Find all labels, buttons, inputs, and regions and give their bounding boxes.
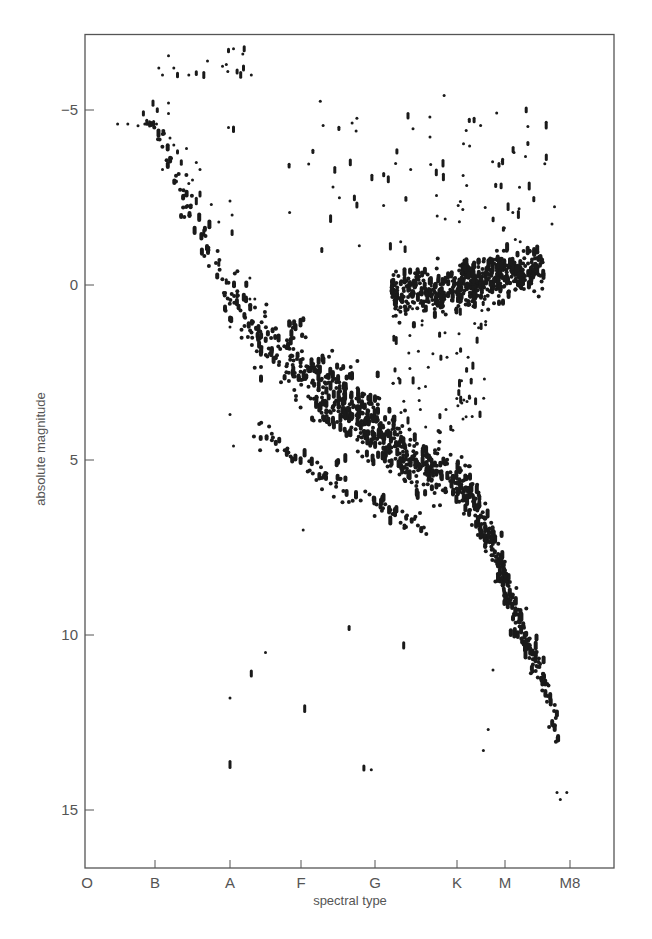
star-point — [405, 284, 409, 288]
star-point — [156, 137, 160, 141]
star-point — [413, 463, 417, 467]
star-point — [405, 449, 409, 458]
star-point — [477, 270, 481, 276]
star-point — [349, 159, 352, 167]
star-point — [359, 498, 363, 502]
star-point — [229, 326, 232, 329]
star-point — [387, 175, 390, 183]
star-point — [522, 256, 526, 260]
star-point — [430, 484, 434, 491]
star-point — [242, 65, 245, 72]
star-point — [414, 458, 418, 462]
star-point — [437, 447, 441, 451]
star-point — [399, 280, 403, 286]
star-point — [250, 319, 254, 326]
star-point — [467, 271, 471, 280]
star-point — [309, 369, 313, 373]
star-point — [387, 421, 391, 425]
star-point — [471, 361, 474, 369]
star-point — [400, 424, 404, 428]
star-point — [527, 274, 531, 278]
star-point — [354, 490, 358, 500]
star-point — [269, 336, 273, 340]
x-tick-label-f: F — [296, 874, 305, 891]
star-point — [285, 364, 289, 368]
star-point — [315, 461, 319, 465]
star-point — [392, 273, 396, 277]
star-point — [298, 378, 302, 382]
star-point — [218, 268, 222, 272]
star-point — [489, 521, 493, 525]
star-point — [496, 542, 500, 546]
star-point — [383, 454, 387, 464]
star-point — [375, 503, 379, 507]
star-point — [152, 99, 155, 106]
star-point — [166, 143, 170, 151]
star-point — [542, 656, 546, 665]
star-point — [161, 168, 164, 171]
star-point — [474, 496, 478, 500]
star-point — [224, 309, 228, 313]
star-point — [317, 357, 321, 365]
star-point — [236, 69, 239, 75]
star-point — [451, 429, 454, 432]
star-point — [546, 694, 550, 698]
star-point — [499, 261, 503, 270]
star-point — [482, 749, 485, 752]
star-point — [229, 413, 232, 416]
star-point — [435, 464, 439, 468]
star-point — [433, 491, 437, 495]
star-point — [366, 409, 370, 413]
star-point — [332, 495, 336, 499]
star-point — [383, 415, 387, 422]
x-tick-label-k: K — [452, 874, 462, 891]
star-point — [230, 292, 234, 296]
star-point — [458, 466, 462, 474]
star-point — [475, 288, 478, 291]
star-point — [409, 168, 412, 171]
star-point — [466, 299, 470, 307]
star-point — [433, 470, 437, 474]
star-point — [433, 311, 437, 319]
star-point — [422, 526, 426, 530]
star-point — [498, 162, 501, 168]
star-point — [446, 356, 449, 359]
star-point — [401, 445, 405, 449]
star-point — [523, 274, 527, 278]
star-point — [486, 272, 490, 276]
star-point — [307, 459, 311, 463]
star-point — [472, 291, 475, 299]
star-point — [266, 330, 270, 336]
star-point — [482, 260, 486, 264]
star-point — [421, 288, 424, 291]
star-point — [332, 186, 335, 189]
star-point — [311, 362, 315, 366]
star-point — [392, 335, 395, 342]
star-point — [526, 141, 529, 146]
star-point — [357, 423, 361, 427]
star-point — [389, 289, 393, 293]
star-point — [217, 261, 220, 267]
star-point — [229, 200, 232, 203]
star-point — [335, 459, 339, 467]
star-point — [443, 459, 447, 463]
star-point — [324, 471, 328, 475]
star-point — [491, 542, 495, 546]
star-point — [395, 285, 399, 289]
star-point — [366, 459, 370, 463]
star-point — [524, 607, 528, 611]
star-point — [255, 349, 259, 353]
star-point — [545, 121, 548, 130]
star-point — [452, 282, 456, 288]
star-point — [250, 336, 254, 340]
star-point — [487, 728, 490, 731]
star-point — [514, 586, 518, 590]
star-point — [388, 432, 392, 436]
star-point — [252, 435, 256, 439]
star-point — [406, 276, 410, 280]
star-point — [445, 408, 448, 411]
star-point — [438, 331, 441, 337]
star-point — [534, 263, 538, 270]
star-point — [492, 217, 495, 223]
star-point — [424, 426, 427, 429]
